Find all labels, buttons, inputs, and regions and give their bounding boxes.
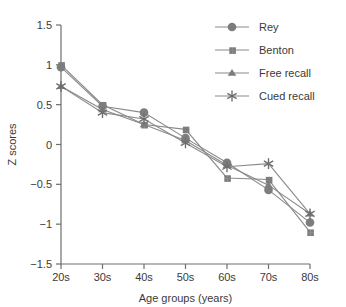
x-tick-label: 80s	[301, 271, 319, 283]
y-tick-label: 1.5	[37, 19, 52, 31]
data-series	[56, 62, 314, 236]
y-tick-label: 1	[46, 59, 52, 71]
marker-square	[186, 127, 189, 130]
marker-square	[228, 175, 231, 178]
marker-square	[183, 130, 186, 133]
marker-square	[103, 102, 106, 105]
marker-square	[224, 178, 227, 181]
legend-item-free-recall[interactable]: Free recall	[215, 67, 311, 79]
y-tick-label: −1.5	[30, 258, 52, 270]
marker-square	[58, 62, 61, 65]
x-axis-ticks: 20s30s40s50s60s70s80s	[52, 264, 319, 283]
y-tick-label: 0.5	[37, 99, 52, 111]
line-chart: 1.510.50−0.5−1−1.5 20s30s40s50s60s70s80s…	[0, 0, 346, 307]
marker-square	[307, 229, 310, 232]
markers-benton	[58, 62, 314, 236]
marker-square	[307, 233, 310, 236]
markers-free-recall	[57, 82, 315, 216]
legend-item-benton[interactable]: Benton	[215, 44, 294, 56]
chart-legend: ReyBentonFree recallCued recall	[215, 21, 315, 102]
marker-square	[233, 47, 236, 50]
marker-square	[224, 175, 227, 178]
legend-label: Cued recall	[259, 90, 315, 102]
marker-square	[100, 102, 103, 105]
y-tick-label: 0	[46, 139, 52, 151]
marker-square	[233, 51, 236, 54]
marker-circle	[306, 218, 315, 227]
y-tick-label: −1	[39, 218, 52, 230]
legend-label: Rey	[259, 21, 279, 33]
x-tick-label: 20s	[52, 271, 70, 283]
marker-square	[62, 65, 65, 68]
marker-square	[186, 130, 189, 133]
legend-item-rey[interactable]: Rey	[215, 21, 279, 33]
x-tick-label: 60s	[218, 271, 236, 283]
marker-square	[269, 177, 272, 180]
x-tick-label: 70s	[260, 271, 278, 283]
marker-square	[266, 177, 269, 180]
marker-star	[56, 81, 65, 92]
x-tick-label: 30s	[94, 271, 112, 283]
marker-square	[58, 65, 61, 68]
legend-item-cued-recall[interactable]: Cued recall	[215, 90, 315, 102]
y-axis-ticks: 1.510.50−0.5−1−1.5	[30, 19, 61, 270]
marker-circle	[228, 23, 237, 32]
marker-square	[311, 233, 314, 236]
marker-square	[228, 178, 231, 181]
marker-square	[311, 229, 314, 232]
x-tick-label: 50s	[177, 271, 195, 283]
legend-label: Free recall	[259, 67, 311, 79]
marker-square	[183, 127, 186, 130]
marker-triangle	[228, 69, 237, 76]
x-tick-label: 40s	[135, 271, 153, 283]
marker-square	[229, 47, 232, 50]
y-tick-label: −0.5	[30, 178, 52, 190]
marker-square	[229, 51, 232, 54]
marker-square	[62, 62, 65, 65]
chart-container: 1.510.50−0.5−1−1.5 20s30s40s50s60s70s80s…	[0, 0, 346, 307]
legend-label: Benton	[259, 44, 294, 56]
y-axis-title: Z scores	[6, 123, 18, 166]
x-axis-title: Age groups (years)	[139, 292, 233, 304]
